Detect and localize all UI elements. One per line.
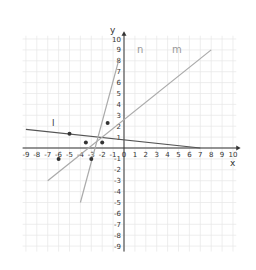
- svg-text:1: 1: [117, 134, 121, 142]
- svg-text:3: 3: [117, 112, 121, 120]
- data-point: [100, 141, 104, 145]
- svg-text:-1: -1: [114, 155, 121, 163]
- svg-text:-2: -2: [99, 151, 106, 159]
- svg-text:1: 1: [133, 151, 137, 159]
- svg-text:-3: -3: [114, 177, 121, 185]
- data-point: [68, 132, 72, 136]
- svg-text:-8: -8: [114, 232, 121, 240]
- svg-text:3: 3: [154, 151, 158, 159]
- svg-text:-6: -6: [114, 210, 122, 218]
- svg-text:-5: -5: [114, 199, 121, 207]
- svg-text:-8: -8: [33, 151, 40, 159]
- svg-text:-5: -5: [66, 151, 73, 159]
- x-axis-label: x: [230, 158, 236, 168]
- svg-text:0: 0: [122, 151, 126, 159]
- axes: [23, 31, 241, 251]
- data-point: [84, 141, 88, 145]
- svg-text:-2: -2: [114, 166, 121, 174]
- grid: [23, 36, 237, 252]
- coordinate-plane: -9-8-7-6-5-4-3-2-1012345678910 109876543…: [0, 0, 256, 270]
- svg-text:5: 5: [176, 151, 180, 159]
- line-l-label: l: [52, 118, 55, 128]
- svg-text:9: 9: [220, 151, 224, 159]
- svg-text:9: 9: [117, 46, 121, 54]
- svg-text:-9: -9: [114, 243, 121, 251]
- y-axis-label: y: [110, 25, 116, 35]
- svg-text:8: 8: [209, 151, 213, 159]
- svg-text:7: 7: [117, 68, 121, 76]
- svg-text:6: 6: [117, 79, 122, 87]
- x-tick-labels: -9-8-7-6-5-4-3-2-1012345678910: [22, 151, 237, 159]
- svg-text:10: 10: [112, 36, 121, 44]
- line-m-label: m: [172, 44, 182, 55]
- svg-text:5: 5: [117, 90, 121, 98]
- data-point: [57, 157, 61, 161]
- svg-text:2: 2: [144, 151, 148, 159]
- svg-text:4: 4: [165, 151, 170, 159]
- svg-text:6: 6: [187, 151, 192, 159]
- svg-text:-9: -9: [22, 151, 29, 159]
- data-point: [89, 157, 93, 161]
- svg-text:4: 4: [117, 101, 122, 109]
- data-point: [106, 121, 110, 125]
- svg-text:-7: -7: [44, 151, 51, 159]
- svg-text:-4: -4: [114, 188, 122, 196]
- svg-text:7: 7: [198, 151, 202, 159]
- line-n-label: n: [137, 44, 143, 55]
- svg-text:-7: -7: [114, 221, 121, 229]
